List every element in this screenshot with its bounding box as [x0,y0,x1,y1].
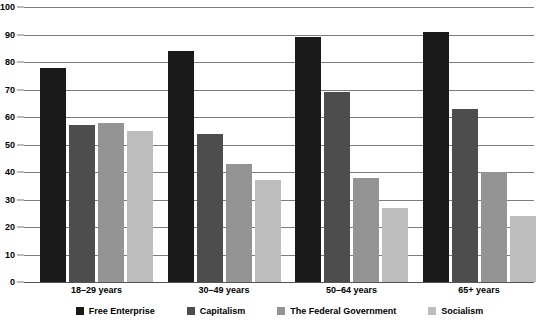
legend-item-label: Capitalism [200,307,246,316]
x-axis-label-3: 65+ years [458,286,499,295]
gridline-100 [24,7,534,8]
bar-free-enterprise-1 [168,51,194,282]
y-tick-mark-80 [17,62,24,63]
legend-swatch-icon [187,307,195,315]
y-tick-label-40: 40 [5,168,15,177]
bar-capitalism-2 [324,92,350,282]
bar-free-enterprise-2 [295,37,321,282]
y-tick-label-90: 90 [5,30,15,39]
bar-the-federal-government-1 [226,164,252,282]
y-tick-label-50: 50 [5,140,15,149]
plot-area [24,7,534,282]
bar-the-federal-government-3 [481,172,507,282]
y-tick-mark-50 [17,144,24,145]
y-tick-mark-0 [17,282,24,283]
y-tick-label-0: 0 [10,278,15,287]
y-tick-mark-30 [17,199,24,200]
x-axis-label-2: 50–64 years [326,286,377,295]
bar-socialism-3 [510,216,536,282]
y-tick-mark-70 [17,89,24,90]
bar-the-federal-government-0 [98,123,124,283]
bar-free-enterprise-0 [40,68,66,283]
y-tick-label-10: 10 [5,250,15,259]
y-tick-label-100: 100 [0,3,15,12]
y-tick-label-80: 80 [5,58,15,67]
y-tick-label-20: 20 [5,223,15,232]
bar-capitalism-3 [452,109,478,282]
y-axis: 0102030405060708090100 [0,0,24,290]
y-tick-mark-90 [17,34,24,35]
legend-item-socialism[interactable]: Socialism [428,307,483,316]
x-axis-label-0: 18–29 years [71,286,122,295]
legend-swatch-icon [277,307,285,315]
bar-capitalism-1 [197,134,223,283]
gridline-90 [24,35,534,36]
y-tick-label-70: 70 [5,85,15,94]
chart-legend: Free EnterpriseCapitalismThe Federal Gov… [0,303,559,319]
bar-capitalism-0 [69,125,95,282]
bar-socialism-1 [255,180,281,282]
legend-swatch-icon [76,307,84,315]
y-tick-mark-20 [17,227,24,228]
gridline-70 [24,90,534,91]
legend-item-label: Free Enterprise [89,307,155,316]
bar-the-federal-government-2 [353,178,379,283]
legend-item-label: Socialism [441,307,483,316]
legend-item-label: The Federal Government [290,307,396,316]
x-axis-label-1: 30–49 years [198,286,249,295]
bar-chart: 0102030405060708090100 Free EnterpriseCa… [0,0,559,322]
legend-item-free-enterprise[interactable]: Free Enterprise [76,307,155,316]
y-tick-mark-10 [17,254,24,255]
bar-free-enterprise-3 [423,32,449,282]
bar-socialism-0 [127,131,153,282]
legend-swatch-icon [428,307,436,315]
gridline-0 [24,282,534,283]
y-tick-mark-60 [17,117,24,118]
y-tick-label-30: 30 [5,195,15,204]
y-tick-mark-40 [17,172,24,173]
y-tick-label-60: 60 [5,113,15,122]
legend-item-the-federal-government[interactable]: The Federal Government [277,307,396,316]
y-tick-mark-100 [17,7,24,8]
gridline-80 [24,62,534,63]
legend-item-capitalism[interactable]: Capitalism [187,307,246,316]
bar-socialism-2 [382,208,408,282]
